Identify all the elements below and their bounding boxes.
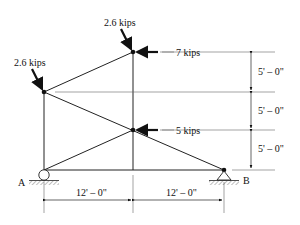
dim-vertical-2: 5' – 0" bbox=[258, 105, 284, 116]
truss-diagram: 5' – 0" 5' – 0" 5' – 0" 12' – 0" 12' – 0… bbox=[0, 0, 300, 225]
joint-left bbox=[42, 90, 47, 95]
load-label-top-inclined: 2.6 kips bbox=[104, 17, 136, 28]
dim-vertical-1: 5' – 0" bbox=[258, 66, 284, 77]
load-label-top-horizontal: 7 kips bbox=[176, 47, 200, 58]
arrow-top-inclined bbox=[121, 29, 131, 49]
member-diag-a-to-mid bbox=[44, 130, 133, 170]
dim-horizontal-2: 12' – 0" bbox=[166, 187, 197, 198]
joints bbox=[42, 50, 227, 173]
load-label-left-inclined: 2.6 kips bbox=[14, 57, 46, 68]
truss-members bbox=[44, 52, 224, 170]
joint-top bbox=[131, 50, 136, 55]
joint-mid bbox=[131, 128, 136, 133]
support-a-label: A bbox=[18, 177, 26, 188]
support-a-roller bbox=[29, 170, 59, 185]
member-top-left bbox=[44, 52, 133, 92]
arrow-left-inclined bbox=[32, 69, 42, 89]
support-b-label: B bbox=[243, 175, 250, 186]
support-b-pin bbox=[209, 171, 239, 185]
load-label-mid-horizontal: 5 kips bbox=[176, 125, 200, 136]
dim-vertical-3: 5' – 0" bbox=[258, 143, 284, 154]
load-arrows bbox=[32, 29, 158, 130]
dim-horizontal-1: 12' – 0" bbox=[76, 187, 107, 198]
